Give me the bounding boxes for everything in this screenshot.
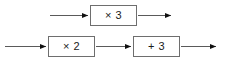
operation-box-times-two: × 2 bbox=[48, 36, 95, 57]
operation-box-times-three: × 3 bbox=[90, 5, 137, 26]
function-machine-diagram: × 3 × 2 + 3 bbox=[0, 0, 226, 63]
operation-box-times-two-label: × 2 bbox=[63, 41, 80, 52]
operation-box-times-three-label: × 3 bbox=[105, 10, 122, 21]
operation-box-plus-three-label: + 3 bbox=[148, 41, 165, 52]
operation-box-plus-three: + 3 bbox=[133, 36, 180, 57]
